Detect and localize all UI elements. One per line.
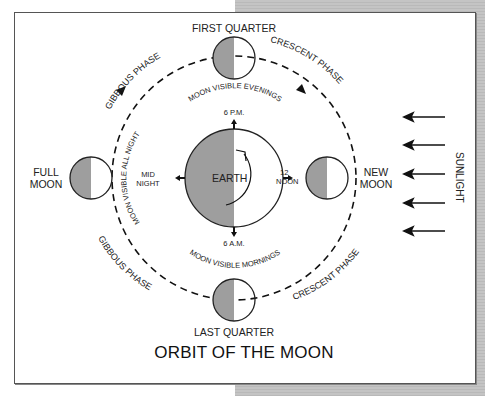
label-midnight-line1: MID [141,170,155,179]
label-sunlight: SUNLIGHT [454,152,465,203]
orbit-direction-arrow-icon [296,84,306,94]
label-crescent-bottom: CRESCENT PHASE [291,247,361,302]
label-noon-line2: NOON [276,177,299,186]
label-new-line2: MOON [360,178,393,190]
label-full-line1: FULL [33,166,59,178]
label-full-line2: MOON [30,178,63,190]
label-visible-evenings: MOON VISIBLE EVENINGS [186,81,283,103]
diagram-title: ORBIT OF THE MOON [14,343,474,363]
label-earth: EARTH [212,172,247,184]
label-noon-line1: 12 [280,168,288,177]
label-visible-mornings: MOON VISIBLE MORNINGS [188,248,282,270]
label-last-quarter: LAST QUARTER [194,326,275,338]
sunlight-arrows-icon [404,113,445,235]
label-first-quarter: FIRST QUARTER [192,22,277,34]
moon-first-quarter-icon [213,37,255,79]
label-6pm: 6 P.M. [224,108,245,117]
label-midnight-line2: NIGHT [136,179,160,188]
orbit-diagram: FIRST QUARTER LAST QUARTER FULL MOON NEW… [0,0,485,396]
label-gibbous-bottom: GIBBOUS PHASE [96,234,153,292]
moon-last-quarter-icon [213,279,255,321]
label-6am: 6 A.M. [223,239,244,248]
moon-new-icon [306,157,348,199]
label-crescent-top: CRESCENT PHASE [269,34,345,85]
label-visible-all-night: MOON VISIBLE ALL NIGHT [119,129,142,226]
label-gibbous-top: GIBBOUS PHASE [103,50,162,111]
moon-full-icon [70,157,112,199]
label-new-line1: NEW [364,166,389,178]
